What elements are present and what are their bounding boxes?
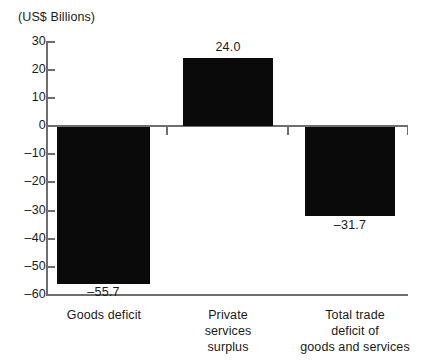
x-category-label-total-trade-deficit: Total trade deficit of goods and service… [285, 307, 425, 355]
y-tick-label-10: 10 [0, 91, 46, 104]
y-tick-30 [46, 41, 55, 43]
y-tick-label--20: –20 [0, 175, 46, 188]
bar-value-goods-deficit: –55.7 [57, 286, 150, 299]
plot-area: 30 20 10 0 –10 –20 –30 –40 –50 –60 –55.7… [0, 0, 427, 362]
y-tick-label--50: –50 [0, 260, 46, 273]
x-tick-1 [166, 126, 168, 135]
x-category-label-private-services-surplus: Private services surplus [168, 307, 288, 355]
y-tick-label-30: 30 [0, 35, 46, 48]
bar-private-services-surplus[interactable] [183, 58, 273, 126]
bar-chart: (US$ Billions) 30 20 10 0 –10 –20 –30 –4… [0, 0, 427, 362]
x-tick-2 [287, 126, 289, 135]
category-line: deficit of [285, 323, 425, 339]
y-tick-label--10: –10 [0, 147, 46, 160]
y-tick-label-0: 0 [0, 119, 46, 132]
y-tick-label--30: –30 [0, 204, 46, 217]
bar-total-trade-deficit[interactable] [305, 127, 395, 216]
y-axis-line [46, 41, 48, 295]
x-category-label-goods-deficit: Goods deficit [44, 307, 164, 323]
y-tick--50 [46, 266, 55, 268]
bar-goods-deficit[interactable] [57, 127, 150, 284]
y-tick-20 [46, 69, 55, 71]
category-line: services [168, 323, 288, 339]
y-tick--30 [46, 210, 55, 212]
bar-value-private-services-surplus: 24.0 [183, 41, 273, 54]
category-line: surplus [168, 339, 288, 355]
y-tick--10 [46, 153, 55, 155]
y-tick-label--60: –60 [0, 288, 46, 301]
category-line: Total trade [285, 307, 425, 323]
y-tick-10 [46, 97, 55, 99]
category-line: Private [168, 307, 288, 323]
category-line: Goods deficit [44, 307, 164, 323]
y-tick--40 [46, 238, 55, 240]
y-tick-label--40: –40 [0, 232, 46, 245]
bar-value-total-trade-deficit: –31.7 [305, 219, 395, 232]
y-tick-label-20: 20 [0, 63, 46, 76]
x-tick-end [407, 126, 409, 135]
y-tick--20 [46, 181, 55, 183]
category-line: goods and services [285, 339, 425, 355]
